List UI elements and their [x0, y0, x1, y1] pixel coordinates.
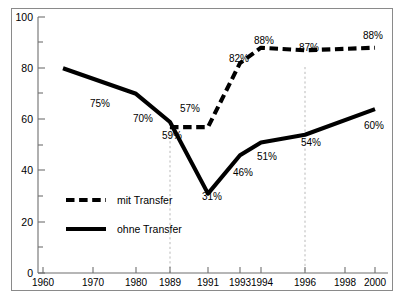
point-label-3: 57% [180, 103, 200, 114]
point-label-1: 70% [133, 113, 153, 124]
point-label-4: 31% [202, 191, 222, 202]
x-tick-label-1991: 1991 [197, 277, 220, 288]
point-label-0: 75% [90, 98, 110, 109]
legend-label-mit-transfer: mit Transfer [117, 194, 173, 206]
x-tick-label-1989: 1989 [159, 277, 182, 288]
x-tick-label-1960: 1960 [32, 277, 55, 288]
x-tick-label-1994: 1994 [251, 277, 274, 288]
point-label-11: 88% [363, 30, 383, 41]
x-tick-label-1996: 1996 [294, 277, 317, 288]
point-label-9: 87% [299, 42, 319, 53]
x-tick-label-1993: 1993 [229, 277, 252, 288]
y-tick-label-80: 80 [21, 62, 33, 74]
x-tick-label-1980: 1980 [125, 277, 148, 288]
point-label-10: 54% [301, 137, 321, 148]
point-label-7: 88% [254, 35, 274, 46]
point-label-12: 60% [364, 120, 384, 131]
point-label-5: 82% [229, 53, 249, 64]
x-tick-label-1970: 1970 [82, 277, 105, 288]
x-tick-label-1998: 1998 [334, 277, 357, 288]
chart-figure: 100 80 60 40 20 0 1960 1970 1980 1989 19… [0, 0, 404, 302]
y-tick-label-20: 20 [21, 216, 33, 228]
line-chart-svg: 100 80 60 40 20 0 1960 1970 1980 1989 19… [0, 0, 404, 302]
y-tick-label-60: 60 [21, 113, 33, 125]
point-label-2: 59% [162, 130, 182, 141]
point-label-6: 46% [233, 167, 253, 178]
legend-label-ohne-transfer: ohne Transfer [117, 223, 182, 235]
y-tick-label-40: 40 [21, 164, 33, 176]
y-tick-label-100: 100 [15, 11, 33, 23]
x-tick-label-2000: 2000 [364, 277, 387, 288]
plot-area [38, 17, 388, 273]
point-label-8: 51% [257, 151, 277, 162]
